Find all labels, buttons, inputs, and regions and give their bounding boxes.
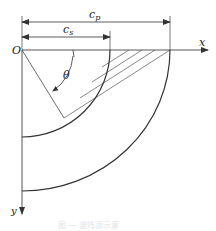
y-axis-label: y	[10, 205, 17, 216]
cs-label: cs	[63, 23, 73, 37]
p-wavefront-arc	[22, 50, 170, 191]
wavefront-diagram: O x y θ cp cs 图 — 波阵面示意	[0, 0, 216, 231]
s-wavefront-arc	[22, 50, 110, 137]
origin-label: O	[12, 44, 21, 57]
hatch-region	[64, 50, 170, 118]
x-axis-label: x	[199, 36, 206, 49]
figure-caption: 图 — 波阵面示意	[58, 220, 119, 230]
ray-line	[22, 50, 64, 118]
cp-label: cp	[89, 8, 100, 22]
theta-label: θ	[63, 69, 70, 82]
